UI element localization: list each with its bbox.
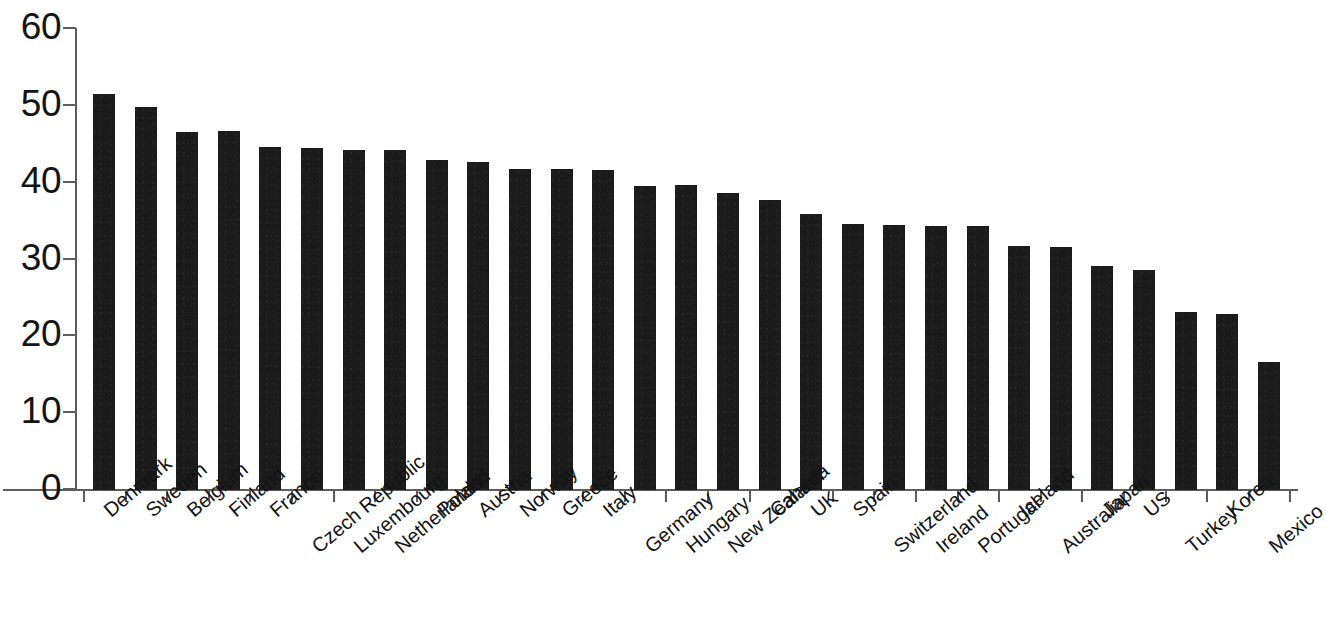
bar — [426, 160, 448, 490]
bar — [592, 170, 614, 490]
bar — [842, 224, 864, 490]
bar — [384, 150, 406, 490]
y-axis-tick-label: 40 — [21, 162, 61, 199]
y-axis-tick-label: 10 — [21, 392, 61, 429]
bar — [634, 186, 656, 490]
y-axis-tick-label: 50 — [21, 85, 61, 122]
bar — [967, 226, 989, 490]
x-axis-tick — [1289, 491, 1291, 502]
x-axis-tick — [333, 491, 335, 502]
bar — [717, 193, 739, 490]
bar — [218, 131, 240, 490]
y-axis-tick-label: 60 — [21, 8, 61, 45]
plot-area — [75, 24, 1299, 490]
bar — [467, 162, 489, 490]
x-axis-category-label: Mexico — [1265, 500, 1326, 556]
bar — [1008, 246, 1030, 490]
x-axis-tick — [1081, 491, 1083, 502]
bar — [1175, 312, 1197, 490]
bar — [883, 225, 905, 490]
bar — [1050, 247, 1072, 490]
bar — [800, 214, 822, 490]
bar — [93, 94, 115, 490]
y-axis-tick-label: 0 — [41, 469, 61, 506]
bar — [135, 107, 157, 490]
x-axis-tick — [915, 491, 917, 502]
x-axis-tick — [83, 491, 85, 502]
bar — [343, 150, 365, 490]
x-axis-tick — [998, 491, 1000, 502]
bar — [1216, 314, 1238, 490]
bar — [759, 200, 781, 490]
y-axis-tick-label: 30 — [21, 239, 61, 276]
x-axis-tick — [1206, 491, 1208, 502]
bar — [259, 147, 281, 490]
bar — [301, 148, 323, 490]
x-axis-tick — [749, 491, 751, 502]
y-axis-tick-label: 20 — [21, 315, 61, 352]
bar — [1133, 270, 1155, 490]
bar — [176, 132, 198, 490]
x-axis-tick — [665, 491, 667, 502]
bar — [925, 226, 947, 490]
bar — [509, 169, 531, 490]
bar — [1091, 266, 1113, 490]
bar — [675, 185, 697, 490]
bar — [551, 169, 573, 490]
